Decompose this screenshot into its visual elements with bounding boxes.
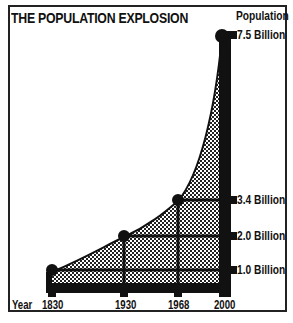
y-tick-1-0: 1.0 Billion <box>237 263 285 277</box>
y-tick-2-0: 2.0 Billion <box>237 229 285 243</box>
tick-1-0 <box>226 266 237 274</box>
x-axis-title: Year <box>12 298 32 312</box>
xtick-1968 <box>174 292 182 297</box>
baseline <box>46 283 231 293</box>
x-tick-1930: 1930 <box>115 298 136 312</box>
point-1968 <box>172 194 184 206</box>
xtick-1930 <box>120 292 128 297</box>
point-1930 <box>118 230 130 242</box>
x-tick-1830: 1830 <box>42 298 63 312</box>
tick-2-0 <box>226 232 237 240</box>
bar-2000 <box>219 36 231 292</box>
xtick-1830 <box>48 292 56 297</box>
point-2000 <box>215 29 229 43</box>
y-tick-7-5: 7.5 Billion <box>237 28 285 42</box>
x-tick-2000: 2000 <box>214 298 235 312</box>
tick-3-4 <box>226 196 237 204</box>
y-tick-3-4: 3.4 Billion <box>237 193 285 207</box>
point-1830 <box>46 264 58 276</box>
x-tick-1968: 1968 <box>168 298 189 312</box>
xtick-2000 <box>219 292 231 297</box>
